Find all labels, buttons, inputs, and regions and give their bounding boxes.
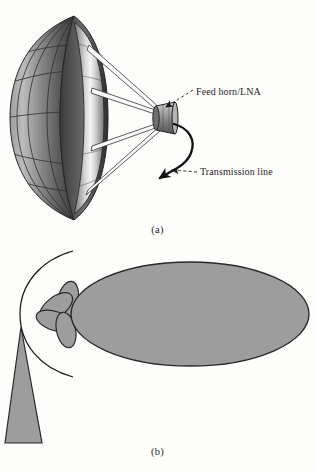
back-lobe bbox=[5, 327, 42, 443]
leader-transmission-line bbox=[172, 170, 197, 172]
figure-root: Feed horn/LNA Transmission line (a) (b) bbox=[0, 0, 315, 471]
feed-horn-body bbox=[153, 102, 178, 134]
label-feed-horn: Feed horn/LNA bbox=[196, 86, 261, 97]
main-lobe bbox=[71, 262, 309, 366]
label-transmission-line: Transmission line bbox=[200, 166, 273, 177]
caption-panel-b: (b) bbox=[0, 446, 315, 457]
panel-b-radiation-pattern-diagram bbox=[0, 240, 315, 471]
caption-panel-a: (a) bbox=[0, 224, 315, 235]
leader-feed-horn bbox=[166, 90, 193, 107]
panel-a-dish-antenna-diagram bbox=[0, 0, 315, 240]
